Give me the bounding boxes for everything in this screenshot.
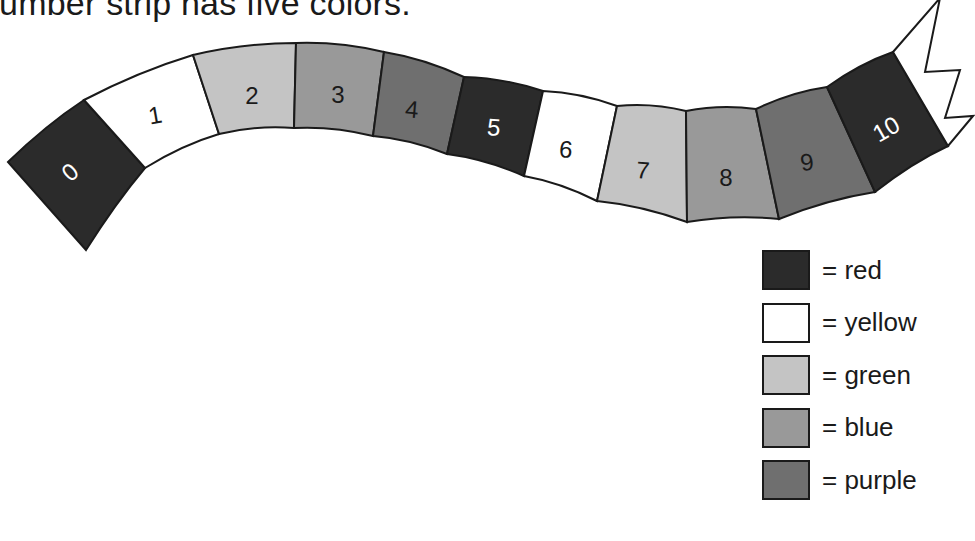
legend-item-blue: = blue [762, 406, 917, 450]
segment-number: 4 [404, 95, 420, 123]
legend-label: = blue [822, 412, 894, 443]
segment-number: 6 [558, 135, 574, 163]
swatch-green [762, 355, 810, 395]
swatch-purple [762, 460, 810, 500]
swatch-yellow [762, 303, 810, 343]
swatch-red [762, 250, 810, 290]
segment-number: 2 [245, 82, 258, 109]
swatch-blue [762, 408, 810, 448]
legend-item-red: = red [762, 248, 917, 292]
segment-number: 8 [719, 164, 732, 191]
legend-label: = yellow [822, 307, 917, 338]
legend-item-green: = green [762, 353, 917, 397]
legend-label: = red [822, 255, 882, 286]
color-legend: = red = yellow = green = blue = purple [762, 248, 917, 511]
segment-number: 5 [486, 113, 502, 141]
legend-label: = green [822, 360, 911, 391]
legend-label: = purple [822, 465, 917, 496]
segment-number: 3 [331, 81, 344, 108]
strip-segment-3: 3 [294, 43, 384, 136]
legend-item-yellow: = yellow [762, 301, 917, 345]
segment-number: 7 [635, 156, 651, 184]
legend-item-purple: = purple [762, 458, 917, 502]
